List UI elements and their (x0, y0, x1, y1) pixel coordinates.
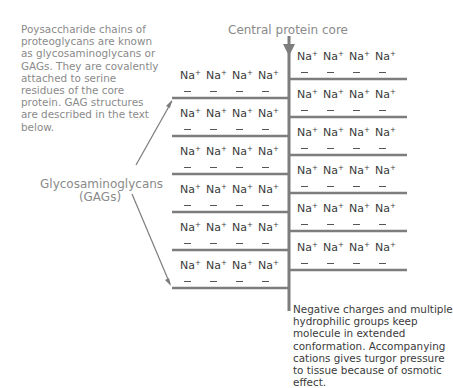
sodium-ion-label: Na+ (232, 260, 260, 272)
sodium-ion-label: Na+ (375, 242, 403, 254)
negative-charge (379, 263, 386, 264)
negative-charge (379, 186, 386, 187)
negative-charge (236, 205, 243, 206)
sodium-ion-label: Na+ (180, 184, 208, 196)
negative-charge (262, 281, 269, 282)
sodium-ion-label: Na+ (258, 70, 286, 82)
negative-charge (379, 72, 386, 73)
negative-charge (379, 224, 386, 225)
negative-charge (210, 205, 217, 206)
negative-charge (353, 186, 360, 187)
sodium-ion-label: Na+ (206, 260, 234, 272)
negative-charge (262, 129, 269, 130)
sodium-ion-label: Na+ (180, 260, 208, 272)
negative-charge (184, 243, 191, 244)
sodium-ion-label: Na+ (206, 222, 234, 234)
sodium-ion-label: Na+ (323, 51, 351, 63)
sodium-ion-label: Na+ (349, 203, 377, 215)
sodium-ion-label: Na+ (180, 146, 208, 158)
negative-charge (236, 243, 243, 244)
negative-charge (301, 148, 308, 149)
negative-charge (262, 243, 269, 244)
sodium-ion-label: Na+ (297, 127, 325, 139)
sodium-ion-label: Na+ (297, 242, 325, 254)
negative-charge (210, 243, 217, 244)
negative-charge (379, 148, 386, 149)
sodium-ion-label: Na+ (232, 108, 260, 120)
sodium-ion-label: Na+ (323, 127, 351, 139)
sodium-ion-label: Na+ (349, 165, 377, 177)
sodium-ion-label: Na+ (375, 165, 403, 177)
sodium-ion-label: Na+ (206, 108, 234, 120)
sodium-ion-label: Na+ (297, 203, 325, 215)
negative-charge (184, 281, 191, 282)
core-arrow-icon (283, 44, 295, 56)
negative-charge (210, 167, 217, 168)
sodium-ion-label: Na+ (323, 242, 351, 254)
sodium-ion-label: Na+ (297, 165, 325, 177)
arrow-down-icon (165, 278, 171, 286)
sodium-ion-label: Na+ (258, 184, 286, 196)
sodium-ion-label: Na+ (323, 165, 351, 177)
sodium-ion-label: Na+ (323, 203, 351, 215)
sodium-ion-label: Na+ (258, 108, 286, 120)
sodium-ion-label: Na+ (206, 146, 234, 158)
negative-charge (353, 148, 360, 149)
sodium-ion-label: Na+ (258, 260, 286, 272)
sodium-ion-label: Na+ (375, 203, 403, 215)
negative-charge (353, 263, 360, 264)
negative-charge (184, 205, 191, 206)
sodium-ion-label: Na+ (297, 89, 325, 101)
negative-charge (301, 110, 308, 111)
negative-charge (210, 129, 217, 130)
negative-charge (301, 224, 308, 225)
negative-charge (236, 129, 243, 130)
sodium-ion-label: Na+ (180, 108, 208, 120)
negative-charge (184, 167, 191, 168)
sodium-ion-label: Na+ (375, 89, 403, 101)
sodium-ion-label: Na+ (258, 146, 286, 158)
sodium-ion-label: Na+ (180, 222, 208, 234)
negative-charge (184, 129, 191, 130)
negative-charge (327, 72, 334, 73)
sodium-ion-label: Na+ (297, 51, 325, 63)
sodium-ion-label: Na+ (232, 184, 260, 196)
sodium-ion-label: Na+ (180, 70, 208, 82)
sodium-ion-label: Na+ (323, 89, 351, 101)
negative-charge (379, 110, 386, 111)
sodium-ion-label: Na+ (232, 146, 260, 158)
negative-charge (327, 186, 334, 187)
negative-charge (353, 224, 360, 225)
sodium-ion-label: Na+ (232, 222, 260, 234)
negative-charge (301, 263, 308, 264)
negative-charge (184, 91, 191, 92)
negative-charge (210, 281, 217, 282)
sodium-ion-label: Na+ (232, 70, 260, 82)
sodium-ion-label: Na+ (375, 51, 403, 63)
negative-charge (327, 263, 334, 264)
sodium-ion-label: Na+ (206, 184, 234, 196)
negative-charge (327, 110, 334, 111)
sodium-ion-label: Na+ (206, 70, 234, 82)
negative-charge (353, 110, 360, 111)
sodium-ion-label: Na+ (258, 222, 286, 234)
sodium-ion-label: Na+ (349, 89, 377, 101)
negative-charge (262, 91, 269, 92)
negative-charge (210, 91, 217, 92)
negative-charge (301, 186, 308, 187)
sodium-ion-label: Na+ (349, 51, 377, 63)
negative-charge (236, 167, 243, 168)
negative-charge (262, 205, 269, 206)
sodium-ion-label: Na+ (375, 127, 403, 139)
negative-charge (327, 224, 334, 225)
negative-charge (236, 281, 243, 282)
sodium-ion-label: Na+ (349, 127, 377, 139)
negative-charge (236, 91, 243, 92)
sodium-ion-label: Na+ (349, 242, 377, 254)
negative-charge (301, 72, 308, 73)
arrow-up-icon (166, 100, 172, 108)
negative-charge (262, 167, 269, 168)
negative-charge (327, 148, 334, 149)
negative-charge (353, 72, 360, 73)
